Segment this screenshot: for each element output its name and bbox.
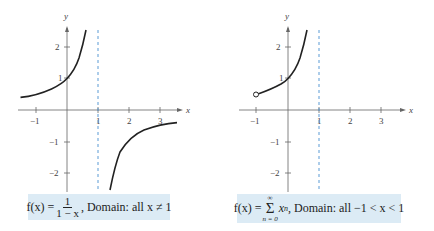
caption-lhs: f(x) = [26, 200, 54, 215]
y-tick-label: −1 [49, 137, 59, 147]
caption-lhs: f(x) = [234, 201, 262, 216]
x-axis-arrow-icon [177, 108, 183, 112]
summation: ∞ Σ n = 0 [262, 194, 277, 223]
x-axis-arrow-icon [400, 108, 406, 112]
graph-right: x y −1 1 2 3 2 1 −1 −2 f(x) = ∞ [217, 0, 434, 231]
curve-series-sum [258, 30, 307, 94]
y-tick-label: −2 [49, 168, 59, 178]
x-tick-label: −1 [250, 116, 260, 126]
y-tick-label: −1 [270, 137, 280, 147]
fraction: 1 1 − x [56, 196, 79, 219]
open-endpoint-circle [254, 92, 259, 97]
x-axis-label: x [408, 105, 413, 115]
x-tick-label: 2 [348, 116, 353, 126]
caption-domain: , Domain: all x ≠ 1 [81, 200, 172, 215]
x-tick-label: 2 [127, 116, 132, 126]
y-axis-arrow-icon [65, 26, 69, 32]
x-tick-label: −1 [30, 116, 40, 126]
caption-right: f(x) = ∞ Σ n = 0 xn , Domain: all −1 < x… [237, 194, 401, 223]
y-tick-label: −2 [270, 168, 280, 178]
fraction-numerator: 1 [63, 196, 73, 208]
sum-lower-limit: n = 0 [262, 215, 277, 223]
x-tick-label: 3 [379, 116, 384, 126]
y-tick-label: 1 [58, 73, 63, 83]
y-tick-label: 2 [55, 42, 60, 52]
graph-left: x y −1 1 2 3 2 1 −1 −2 f(x) = [0, 0, 217, 231]
caption-left: f(x) = 1 1 − x , Domain: all x ≠ 1 [28, 194, 170, 220]
curve-right-branch [110, 123, 177, 190]
curve-left-branch [21, 30, 87, 97]
fraction-denominator: 1 − x [56, 208, 79, 219]
x-axis-label: x [185, 105, 190, 115]
y-axis-arrow-icon [286, 26, 290, 32]
y-axis-label: y [63, 11, 68, 21]
y-tick-label: 2 [276, 42, 281, 52]
y-tick-label: 1 [279, 73, 284, 83]
sigma-symbol: Σ [266, 202, 275, 215]
caption-domain: , Domain: all −1 < x < 1 [288, 201, 404, 216]
y-axis-label: y [284, 11, 289, 21]
